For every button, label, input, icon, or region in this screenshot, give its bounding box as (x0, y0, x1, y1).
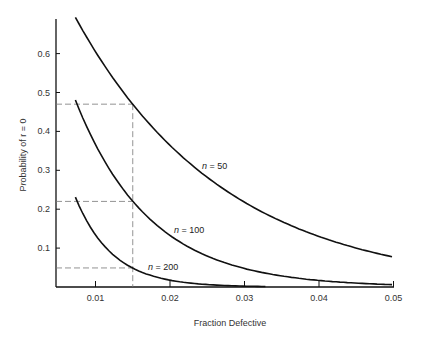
y-tick-label: 0.3 (37, 165, 50, 175)
y-tick-label: 0.1 (37, 243, 50, 253)
y-axis-title: Probability of r = 0 (18, 119, 28, 192)
y-tick-label: 0.2 (37, 204, 50, 214)
x-tick-label: 0.05 (385, 293, 403, 303)
x-tick-label: 0.02 (161, 293, 179, 303)
y-tick-label: 0.5 (37, 88, 50, 98)
y-tick-label: 0.6 (37, 49, 50, 59)
y-tick-label: 0.4 (37, 126, 50, 136)
curve-n-100 (75, 100, 392, 285)
curve-label-n-100: n = 100 (174, 225, 204, 235)
x-tick-label: 0.03 (236, 293, 254, 303)
curve-n-200 (75, 197, 265, 286)
curve-n-50 (75, 17, 392, 256)
x-tick-label: 0.04 (310, 293, 328, 303)
curves (75, 17, 392, 286)
x-ticks: 0.010.020.030.040.05 (87, 281, 403, 303)
dashed-guides (56, 104, 133, 287)
curve-labels: n = 50n = 100n = 200 (148, 161, 227, 272)
curve-label-n-50: n = 50 (202, 161, 227, 171)
curve-label-n-200: n = 200 (148, 262, 178, 272)
oc-curve-chart: 0.10.20.30.40.50.6 0.010.020.030.040.05 … (0, 0, 423, 339)
x-axis-title: Fraction Defective (194, 318, 267, 328)
x-tick-label: 0.01 (87, 293, 105, 303)
